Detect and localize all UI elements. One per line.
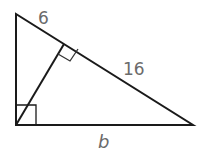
altitude-line	[16, 44, 64, 125]
label-long-segment: 16	[123, 59, 145, 79]
label-base: b	[98, 131, 109, 152]
triangle-diagram: 6 16 b	[0, 0, 202, 161]
label-short-segment: 6	[38, 8, 49, 28]
triangle	[16, 14, 193, 125]
